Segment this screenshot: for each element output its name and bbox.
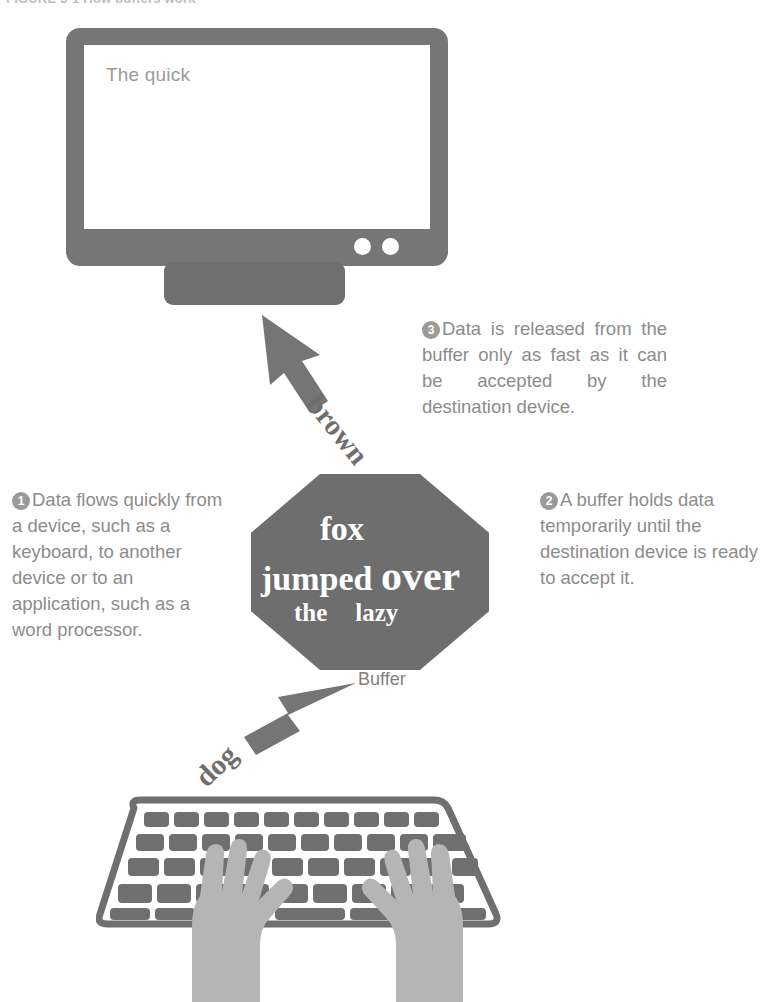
buffer-text-line-3: thelazy (294, 599, 398, 627)
callout-2: 2A buffer holds data temporarily until t… (540, 487, 775, 591)
buffer-octagon: fox jumped over thelazy (251, 474, 489, 670)
buffer-word-jumped: jumped (261, 560, 381, 597)
buffer-word-over: over (381, 553, 460, 599)
callout-1-text: Data flows quickly from a device, such a… (12, 489, 222, 640)
buffer-text-line-1: fox (320, 510, 364, 548)
buffer-label: Buffer (358, 669, 406, 690)
buffer-word-lazy: lazy (355, 599, 398, 626)
callout-1-badge: 1 (12, 492, 30, 510)
arrow-up-to-monitor-icon (250, 305, 410, 475)
callout-2-text: A buffer holds data temporarily until th… (540, 489, 758, 588)
monitor: The quick (66, 28, 448, 266)
buffer-text-line-2: jumped over (261, 552, 460, 600)
callout-3: 3Data is released from the buffer only a… (422, 316, 667, 420)
callout-2-badge: 2 (540, 492, 558, 510)
monitor-screen: The quick (84, 45, 430, 229)
power-dot-icon (354, 238, 371, 255)
buffer-word-the: the (294, 599, 327, 626)
indicator-dot-icon (382, 238, 399, 255)
figure-caption: FIGURE 5-1 How buffers work (6, 0, 196, 6)
arrow-label-brown: brown (299, 388, 375, 471)
figure-buffers-diagram: FIGURE 5-1 How buffers work The quick br… (0, 0, 782, 1002)
callout-1: 1Data flows quickly from a device, such … (12, 487, 227, 643)
screen-text: The quick (106, 64, 190, 86)
keyboard-with-hands (96, 796, 556, 1002)
arrow-label-dog: dog (189, 738, 244, 793)
monitor-stand (164, 262, 345, 305)
callout-3-text: Data is released from the buffer only as… (422, 318, 667, 417)
callout-3-badge: 3 (422, 321, 440, 339)
